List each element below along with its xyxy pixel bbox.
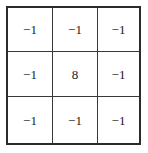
matrix-cell-r1c2: −1	[98, 52, 139, 97]
matrix-cell-r0c0: −1	[8, 8, 53, 52]
matrix-cell-r0c2: −1	[98, 8, 139, 52]
matrix-cell-r2c2: −1	[98, 97, 139, 143]
matrix-figure: −1 −1 −1 −1 8 −1 −1 −1 −1	[0, 0, 148, 153]
matrix-cell-value: −1	[68, 114, 82, 127]
matrix-cell-value: −1	[111, 114, 125, 127]
matrix-cell-r1c0: −1	[8, 52, 53, 97]
matrix-cell-value: −1	[111, 68, 125, 81]
matrix-cell-value: −1	[111, 23, 125, 36]
matrix-cell-value: 8	[72, 68, 79, 81]
matrix-cell-r2c1: −1	[53, 97, 98, 143]
matrix-cell-r1c1: 8	[53, 52, 98, 97]
matrix-cell-value: −1	[23, 23, 37, 36]
matrix-cell-value: −1	[23, 114, 37, 127]
matrix-cell-value: −1	[23, 68, 37, 81]
matrix-grid: −1 −1 −1 −1 8 −1 −1 −1 −1	[6, 6, 141, 145]
matrix-cell-value: −1	[68, 23, 82, 36]
matrix-cell-r0c1: −1	[53, 8, 98, 52]
matrix-cell-r2c0: −1	[8, 97, 53, 143]
